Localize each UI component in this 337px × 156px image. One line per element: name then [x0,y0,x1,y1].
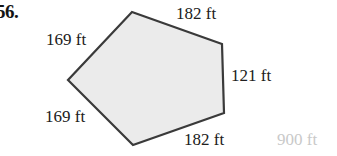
side-label-upper-left: 169 ft [46,31,86,48]
figure-page: 56. 182 ft 121 ft 182 ft 169 ft 169 ft 9… [0,0,337,156]
faded-bleedthrough-label: 900 ft [277,131,317,148]
side-label-bottom: 182 ft [184,131,224,148]
side-label-right: 121 ft [231,67,271,84]
side-label-top: 182 ft [176,5,216,22]
pentagon-shape [68,12,224,145]
side-label-lower-left: 169 ft [45,108,85,125]
